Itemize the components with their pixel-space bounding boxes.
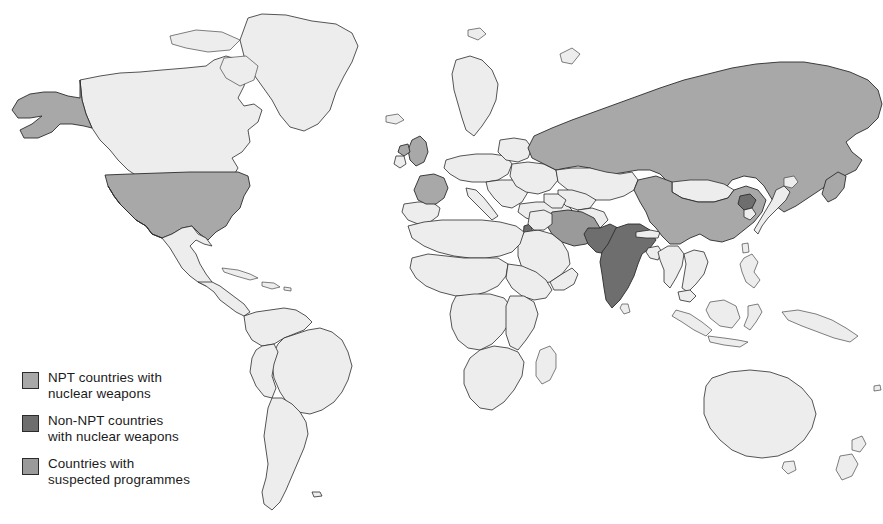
island-puerto-rico xyxy=(284,287,291,291)
legend-label-suspected: Countries with suspected programmes xyxy=(48,456,190,487)
legend-swatch-dark-icon xyxy=(22,415,39,432)
legend-label-non-npt-nuclear: Non-NPT countries with nuclear weapons xyxy=(48,413,179,444)
legend-label-npt-nuclear: NPT countries with nuclear weapons xyxy=(48,370,162,401)
country-iraq-syria-jordan xyxy=(528,210,552,230)
country-nepal-bhutan xyxy=(636,230,660,238)
legend-item-npt-nuclear: NPT countries with nuclear weapons xyxy=(22,370,237,401)
legend-item-suspected: Countries with suspected programmes xyxy=(22,456,237,487)
world-map-figure: .land{fill:#ededed;stroke:#2b2b2b;stroke… xyxy=(0,0,883,524)
island-taiwan xyxy=(742,243,749,253)
legend-swatch-light-icon xyxy=(22,372,39,389)
legend-swatch-medium-icon xyxy=(22,458,39,475)
island-fiji xyxy=(874,385,881,391)
island-falklands xyxy=(312,492,322,497)
legend-item-non-npt-nuclear: Non-NPT countries with nuclear weapons xyxy=(22,413,237,444)
map-legend: NPT countries with nuclear weapons Non-N… xyxy=(22,370,237,500)
